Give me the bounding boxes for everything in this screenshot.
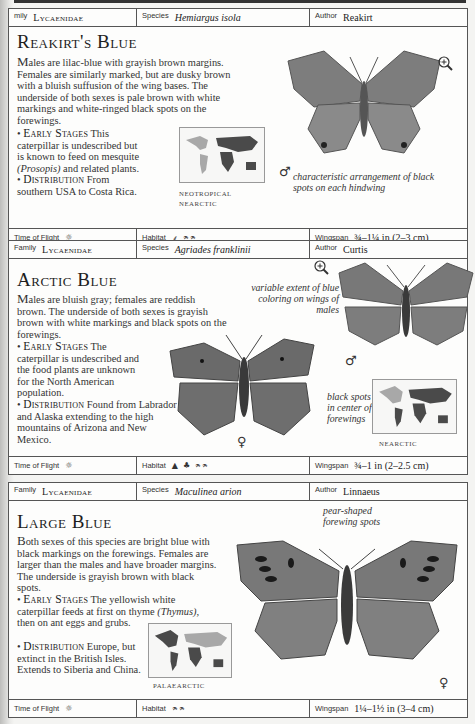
species-description: Males are lilac-blue with grayish brown … (17, 56, 245, 127)
family-value: Lycaenidae (33, 12, 83, 23)
author-cell: Author Reakirt (310, 9, 467, 26)
entry-header: Family Lycaenidae Species Agriades frank… (9, 241, 467, 259)
sun-icon: ☼ (65, 704, 73, 713)
time-of-flight-cell: Time of Flight ☼ (9, 700, 137, 717)
family-label: Family (14, 485, 36, 494)
author-cell: Author Linnaeus (310, 483, 467, 500)
range-map (148, 623, 232, 678)
entry-header: mily Lycaenidae Species Hemiargus isola … (9, 9, 467, 27)
species-label: Species (142, 485, 169, 494)
entry-footer: Time of Flight ☼ Habitat ▲ ♣ ᨑᨑ Wingspan… (9, 456, 467, 474)
author-value: Linnaeus (343, 486, 380, 497)
species-description: Both sexes of this species are bright bl… (17, 535, 217, 594)
butterfly-illustration (284, 49, 444, 169)
time-of-flight-label: Time of Flight (14, 704, 59, 713)
tree-icon: ♣ (183, 461, 191, 470)
mountain-icon: ▲ (172, 461, 179, 470)
family-cell: mily Lycaenidae (9, 9, 137, 26)
species-value: Hemiargus isola (175, 12, 241, 23)
wingspan-value: ¾–1 in (2–2.5 cm) (354, 460, 428, 471)
female-symbol: ♀ (439, 675, 449, 690)
species-cell: Species Maculinea arion (137, 483, 310, 500)
species-title: Arctic Blue (17, 269, 117, 291)
female-butterfly-illustration (164, 331, 324, 446)
wingspan-cell: Wingspan ¾–1 in (2–2.5 cm) (310, 457, 467, 474)
male-symbol: ♂ (279, 164, 291, 179)
wingspan-value: 1¼–1½ in (3–4 cm) (354, 703, 433, 714)
map-region-labels: NEARCTIC (379, 439, 417, 449)
time-of-flight-cell: Time of Flight ☼ (9, 457, 137, 474)
annotation-hindwing-spots: characteristic arrangement of black spot… (293, 171, 443, 193)
wingspan-label: Wingspan (315, 461, 348, 470)
annotation-blue-coloring: variable extent of blue coloring on wing… (247, 282, 339, 315)
author-cell: Author Curtis (310, 241, 467, 258)
family-label: mily (14, 11, 27, 20)
habitat-label: Habitat (142, 461, 166, 470)
time-of-flight-label: Time of Flight (14, 461, 59, 470)
species-title: Large Blue (17, 511, 112, 533)
magnifier-icon[interactable] (313, 259, 329, 275)
entry-footer: Time of Flight ☼ Habitat ᨑᨑ Wingspan 1¼–… (9, 699, 467, 717)
species-value: Maculinea arion (175, 486, 242, 497)
male-butterfly-illustration (335, 261, 475, 356)
annotation-forewing-spots: black spots in center of forewings (327, 391, 377, 424)
sun-icon: ☼ (65, 461, 73, 470)
entry-arctic-blue: Family Lycaenidae Species Agriades frank… (8, 240, 468, 475)
author-label: Author (315, 11, 337, 20)
meadow-icon: ᨑᨑ (195, 461, 209, 471)
map-region-labels: PALAEARCTIC (153, 681, 205, 691)
world-map-icon (180, 128, 264, 182)
author-label: Author (315, 485, 337, 494)
meadow-icon: ᨑᨑ (172, 704, 186, 714)
magnifier-icon[interactable] (437, 55, 453, 71)
habitat-cell: Habitat ᨑᨑ (137, 700, 310, 717)
wingspan-label: Wingspan (315, 704, 348, 713)
species-value: Agriades franklinii (175, 244, 251, 255)
species-cell: Species Hemiargus isola (137, 9, 310, 26)
range-map (372, 379, 457, 434)
female-symbol: ♀ (237, 434, 247, 449)
map-region-labels: NEOTROPICAL NEARCTIC (179, 189, 232, 209)
family-cell: Family Lycaenidae (9, 241, 137, 258)
entry-large-blue: Family Lycaenidae Species Maculinea ario… (8, 482, 468, 718)
world-map-icon (149, 624, 231, 677)
world-map-icon (373, 380, 456, 433)
entry-header: Family Lycaenidae Species Maculinea ario… (9, 483, 467, 501)
habitat-cell: Habitat ▲ ♣ ᨑᨑ (137, 457, 310, 474)
annotation-pear-shaped-spots: pear-shaped forewing spots (323, 505, 393, 527)
author-label: Author (315, 243, 337, 252)
species-label: Species (142, 11, 169, 20)
early-stages: • Early Stages The caterpillar is undesc… (17, 341, 147, 399)
species-label: Species (142, 243, 169, 252)
distribution: • Distribution Europe, but extinct in th… (17, 641, 145, 676)
family-value: Lycaenidae (42, 244, 92, 255)
species-title: Reakirt's Blue (17, 31, 137, 53)
family-cell: Family Lycaenidae (9, 483, 137, 500)
author-value: Reakirt (343, 12, 372, 23)
wingspan-cell: Wingspan 1¼–1½ in (3–4 cm) (310, 700, 467, 717)
habitat-label: Habitat (142, 704, 166, 713)
butterfly-illustration (231, 531, 463, 671)
early-stages: • Early Stages This caterpillar is undes… (17, 128, 142, 198)
family-label: Family (14, 243, 36, 252)
male-symbol: ♂ (345, 353, 357, 368)
author-value: Curtis (343, 244, 367, 255)
family-value: Lycaenidae (42, 486, 92, 497)
species-cell: Species Agriades franklinii (137, 241, 310, 258)
distribution: • Distribution Found from Labrador and A… (17, 399, 177, 445)
entry-reakirts-blue: mily Lycaenidae Species Hemiargus isola … (8, 8, 468, 247)
top-rule (14, 0, 466, 3)
range-map (179, 127, 265, 183)
